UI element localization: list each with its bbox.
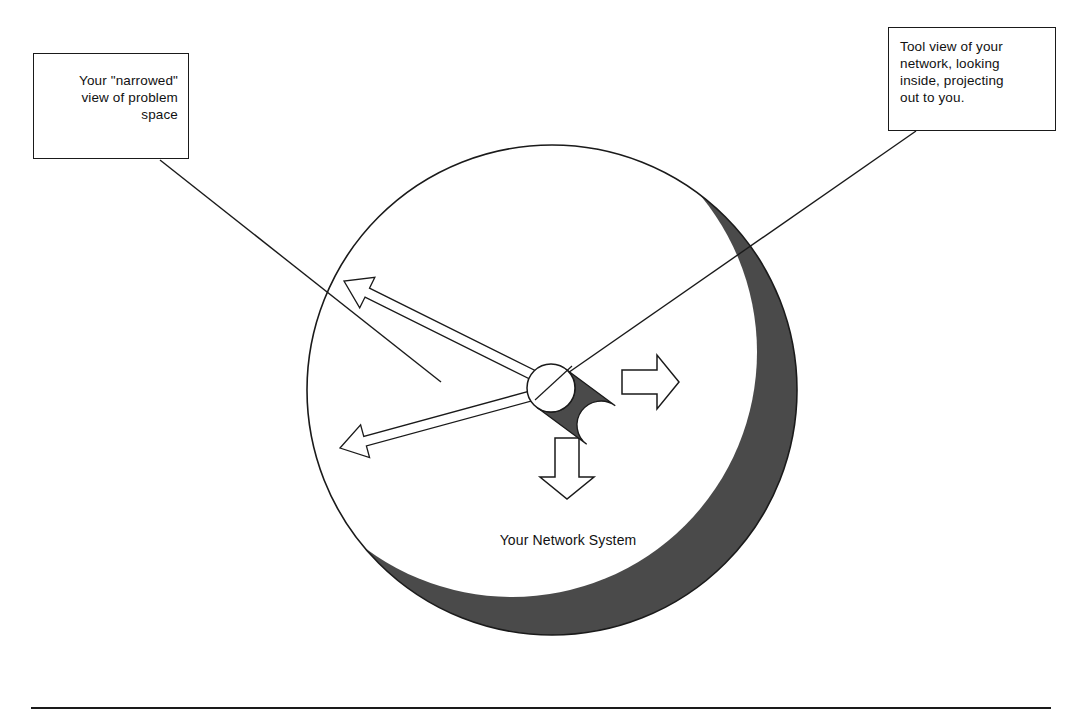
callout-left-line-2: view of problem [45,89,178,106]
cylinder-cap [527,364,575,412]
callout-left-line-1: Your "narrowed" [45,72,178,89]
callout-right-line-4: out to you. [900,89,1045,106]
tool-view-callout: Tool view of your network, looking insid… [888,27,1056,131]
callout-right-line-2: network, looking [900,55,1045,72]
callout-right-line-1: Tool view of your [900,38,1045,55]
diagram-root: Your "narrowed" view of problem space To… [0,0,1082,718]
callout-left-line-3: space [45,106,178,123]
callout-right-line-3: inside, projecting [900,72,1045,89]
narrowed-view-callout: Your "narrowed" view of problem space [33,53,189,159]
